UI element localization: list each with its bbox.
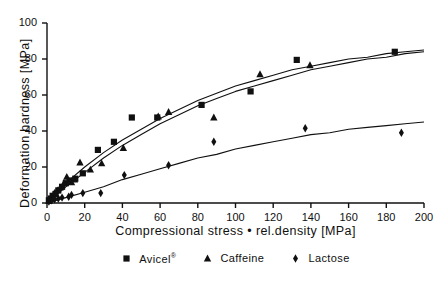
registered-trademark-icon: ®	[171, 252, 177, 259]
legend-label: Avicel®	[139, 252, 176, 265]
figure-container: Deformation hardness [MPa] Compressional…	[0, 0, 445, 282]
fit-curves-group	[47, 50, 424, 203]
series-caffeine	[45, 61, 313, 204]
fit-curve-avicel	[47, 50, 424, 203]
data-point	[165, 108, 172, 115]
data-point	[60, 193, 65, 201]
square-marker	[121, 253, 132, 264]
data-point	[98, 189, 103, 197]
diamond-marker	[290, 253, 301, 264]
data-point	[111, 139, 117, 145]
series-avicel	[46, 49, 398, 204]
y-axis-label: Deformation hardness [MPa]	[18, 0, 32, 208]
data-point	[303, 124, 308, 132]
x-tick-label: 120	[258, 211, 288, 223]
x-tick-label: 140	[296, 211, 326, 223]
legend-label: Caffeine	[220, 252, 264, 264]
data-point	[247, 88, 253, 94]
data-point	[294, 57, 300, 63]
y-tick-label: 20	[11, 160, 37, 172]
data-point	[76, 159, 83, 166]
data-point	[392, 49, 398, 55]
data-point	[306, 61, 313, 68]
data-point	[256, 70, 263, 77]
data-points-group	[45, 49, 404, 206]
data-point	[166, 161, 171, 169]
data-point	[80, 189, 85, 197]
x-axis-label: Compressional stress • rel.density [MPa]	[47, 224, 424, 238]
chart-legend: Avicel®CaffeineLactose	[47, 252, 424, 265]
data-point	[198, 102, 204, 108]
legend-item-lactose: Lactose	[290, 252, 349, 264]
triangle-marker	[202, 253, 213, 264]
data-point	[98, 159, 105, 166]
data-point	[129, 114, 135, 120]
y-tick-label: 40	[11, 124, 37, 136]
x-tick-label: 60	[145, 211, 175, 223]
data-point	[120, 144, 127, 151]
y-tick-label: 0	[11, 196, 37, 208]
x-axis-ticks	[47, 203, 424, 208]
legend-label: Lactose	[308, 252, 349, 264]
y-tick-label: 80	[11, 52, 37, 64]
legend-item-avicel: Avicel®	[121, 252, 176, 265]
x-tick-label: 0	[32, 211, 62, 223]
data-point	[399, 129, 404, 137]
chart-plot-area	[0, 0, 445, 282]
x-tick-label: 160	[334, 211, 364, 223]
data-point	[211, 138, 216, 146]
x-tick-label: 40	[107, 211, 137, 223]
x-tick-label: 180	[371, 211, 401, 223]
legend-item-caffeine: Caffeine	[202, 252, 264, 264]
x-tick-label: 100	[221, 211, 251, 223]
data-point	[80, 170, 86, 176]
x-tick-label: 20	[70, 211, 100, 223]
fit-curve-lactose	[47, 122, 424, 203]
y-tick-label: 100	[11, 16, 37, 28]
x-tick-label: 200	[409, 211, 439, 223]
data-point	[63, 173, 70, 180]
data-point	[95, 147, 101, 153]
y-axis-ticks	[42, 23, 47, 203]
data-point	[210, 114, 217, 121]
axis-lines	[47, 23, 424, 203]
x-tick-label: 80	[183, 211, 213, 223]
y-tick-label: 60	[11, 88, 37, 100]
